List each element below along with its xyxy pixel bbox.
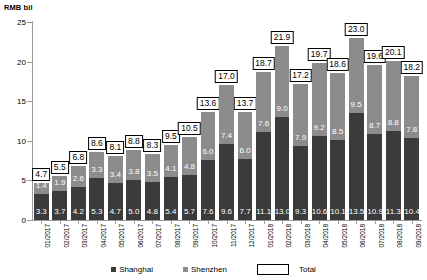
- bar-segment-shanghai[interactable]: 5.3: [89, 178, 104, 220]
- bar-segment-shanghai[interactable]: 10.9: [367, 134, 382, 220]
- bar-value-shanghai: 7.6: [201, 208, 216, 216]
- bar-segment-shenzhen[interactable]: 2.6: [71, 166, 86, 187]
- bar-total-label: 17.2: [289, 69, 312, 82]
- bar-group[interactable]: 10.18.518.6: [330, 73, 345, 220]
- bar-group[interactable]: 9.37.917.2: [293, 84, 308, 220]
- bar-value-shenzhen: 3.5: [145, 170, 160, 178]
- bar-segment-shenzhen[interactable]: 7.8: [404, 76, 419, 138]
- bar-group[interactable]: 7.66.013.6: [201, 112, 216, 220]
- bar-group[interactable]: 11.38.820.1: [386, 61, 401, 220]
- bar-value-shenzhen: 6.0: [201, 148, 216, 156]
- bar-value-shanghai: 3.7: [52, 208, 67, 216]
- bar-group[interactable]: 5.44.19.5: [164, 145, 179, 220]
- bar-group[interactable]: 10.47.818.2: [404, 76, 419, 220]
- bar-value-shanghai: 11.1: [256, 208, 271, 216]
- bar-total-label: 8.6: [88, 137, 106, 150]
- bar-segment-shenzhen[interactable]: 3.4: [108, 156, 123, 183]
- bar-segment-shanghai[interactable]: 4.8: [145, 182, 160, 220]
- bar-group[interactable]: 3.71.95.5: [52, 176, 67, 220]
- bar-value-shanghai: 3.3: [34, 208, 49, 216]
- legend-label-shanghai: Shanghai: [119, 265, 153, 274]
- bar-segment-shanghai[interactable]: 4.7: [108, 183, 123, 220]
- bar-group[interactable]: 4.22.66.8: [71, 166, 86, 220]
- bar-value-shanghai: 13.5: [349, 208, 364, 216]
- bar-segment-shanghai[interactable]: 9.6: [219, 144, 234, 220]
- bar-value-shenzhen: 8.7: [367, 122, 382, 130]
- bar-segment-shenzhen[interactable]: 9.2: [312, 63, 327, 136]
- bar-segment-shanghai[interactable]: 4.2: [71, 187, 86, 220]
- bar-segment-shanghai[interactable]: 13.0: [275, 117, 290, 220]
- bar-segment-shenzhen[interactable]: 4.1: [164, 145, 179, 177]
- bar-total-label: 18.6: [326, 58, 349, 71]
- bar-segment-shenzhen[interactable]: 7.9: [293, 84, 308, 147]
- bar-segment-shenzhen[interactable]: 3.8: [126, 150, 141, 180]
- bar-segment-shenzhen[interactable]: 3.5: [145, 154, 160, 182]
- bar-segment-shanghai[interactable]: 10.4: [404, 138, 419, 220]
- bar-group[interactable]: 5.74.810.5: [182, 137, 197, 220]
- stacked-bar-chart: RMB bil 0510152025 3.31.44.73.71.95.54.2…: [0, 0, 427, 280]
- bar-segment-shanghai[interactable]: 10.6: [312, 136, 327, 220]
- bar-segment-shenzhen[interactable]: 1.9: [52, 176, 67, 191]
- bar-segment-shanghai[interactable]: 3.7: [52, 191, 67, 220]
- bar-segment-shenzhen[interactable]: 8.8: [386, 61, 401, 131]
- bar-value-shenzhen: 4.8: [182, 163, 197, 171]
- bar-value-shanghai: 4.2: [71, 208, 86, 216]
- bar-group[interactable]: 5.03.88.8: [126, 150, 141, 220]
- bar-segment-shanghai[interactable]: 7.6: [201, 160, 216, 220]
- bar-value-shanghai: 10.9: [367, 208, 382, 216]
- bar-segment-shenzhen[interactable]: 9.0: [275, 46, 290, 117]
- bar-total-label: 8.1: [106, 141, 124, 154]
- bar-total-label: 6.8: [69, 151, 87, 164]
- bar-segment-shanghai[interactable]: 10.1: [330, 140, 345, 220]
- legend-item-total: Total: [257, 264, 316, 275]
- bar-group[interactable]: 10.98.719.6: [367, 65, 382, 220]
- bar-value-shenzhen: 7.8: [404, 126, 419, 134]
- bar-segment-shenzhen[interactable]: 4.8: [182, 137, 197, 175]
- bar-segment-shenzhen[interactable]: 8.7: [367, 65, 382, 134]
- bar-value-shenzhen: 7.4: [219, 132, 234, 140]
- bar-value-shanghai: 9.6: [219, 208, 234, 216]
- legend-item-shanghai: Shanghai: [111, 265, 153, 274]
- bar-total-label: 13.7: [234, 97, 257, 110]
- bar-value-shanghai: 11.3: [386, 208, 401, 216]
- bar-segment-shanghai[interactable]: 5.7: [182, 175, 197, 220]
- bar-segment-shenzhen[interactable]: 3.3: [89, 152, 104, 178]
- bar-value-shenzhen: 6.0: [238, 147, 253, 155]
- bar-value-shanghai: 4.7: [108, 208, 123, 216]
- bar-value-shanghai: 5.4: [164, 208, 179, 216]
- bar-segment-shanghai[interactable]: 11.3: [386, 131, 401, 220]
- bar-segment-shenzhen[interactable]: 7.6: [256, 72, 271, 132]
- bar-group[interactable]: 3.31.44.7: [34, 183, 49, 220]
- bar-segment-shanghai[interactable]: 11.1: [256, 132, 271, 220]
- bar-segment-shenzhen[interactable]: 7.4: [219, 85, 234, 144]
- bar-group[interactable]: 13.09.021.9: [275, 46, 290, 220]
- bar-group[interactable]: 13.59.523.0: [349, 38, 364, 220]
- bar-segment-shenzhen[interactable]: 9.5: [349, 38, 364, 113]
- bar-total-label: 23.0: [345, 23, 368, 36]
- bar-total-label: 21.9: [271, 31, 294, 44]
- bar-group[interactable]: 5.33.38.6: [89, 152, 104, 220]
- bar-segment-shanghai[interactable]: 9.3: [293, 146, 308, 220]
- bar-segment-shenzhen[interactable]: 1.4: [34, 183, 49, 194]
- bar-group[interactable]: 4.73.48.1: [108, 156, 123, 220]
- bar-segment-shenzhen[interactable]: 6.0: [238, 112, 253, 160]
- bar-segment-shanghai[interactable]: 3.3: [34, 194, 49, 220]
- legend-label-shenzhen: Shenzhen: [191, 265, 227, 274]
- bar-group[interactable]: 9.67.417.0: [219, 85, 234, 220]
- bar-group[interactable]: 11.17.618.7: [256, 72, 271, 220]
- bar-segment-shanghai[interactable]: 5.0: [126, 180, 141, 220]
- bar-total-label: 4.7: [32, 168, 50, 181]
- bar-segment-shenzhen[interactable]: 8.5: [330, 73, 345, 140]
- bar-value-shenzhen: 1.9: [52, 179, 67, 187]
- bar-group[interactable]: 10.69.219.7: [312, 63, 327, 220]
- bar-value-shenzhen: 3.3: [89, 166, 104, 174]
- bar-segment-shanghai[interactable]: 13.5: [349, 113, 364, 220]
- bar-segment-shenzhen[interactable]: 6.0: [201, 112, 216, 160]
- bar-value-shanghai: 4.8: [145, 208, 160, 216]
- bar-segment-shanghai[interactable]: 5.4: [164, 177, 179, 220]
- bar-value-shenzhen: 9.0: [275, 105, 290, 113]
- bar-group[interactable]: 7.76.013.7: [238, 112, 253, 221]
- bar-value-shenzhen: 2.6: [71, 175, 86, 183]
- bar-group[interactable]: 4.83.58.3: [145, 154, 160, 220]
- bar-segment-shanghai[interactable]: 7.7: [238, 159, 253, 220]
